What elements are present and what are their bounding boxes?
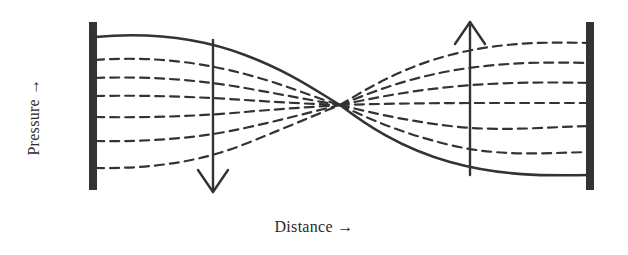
- right-dashed-curve-2: [340, 63, 590, 105]
- right-boundary-wall: [586, 22, 594, 190]
- diagram-canvas: [0, 0, 628, 255]
- right-upward-arrow: [455, 22, 485, 175]
- left-dashed-curve-4: [95, 105, 340, 117]
- pressure-distance-diagram: Pressure → Distance →: [0, 0, 628, 255]
- left-dashed-curve-3: [95, 96, 340, 105]
- x-axis-label: Distance →: [0, 218, 628, 236]
- right-dashed-curve-4: [340, 103, 590, 105]
- y-axis-label: Pressure →: [25, 47, 43, 187]
- left-dashed-curve-5: [95, 105, 340, 141]
- right-dashed-curve-3: [340, 82, 590, 105]
- left-boundary-wall: [89, 22, 97, 190]
- left-envelope-solid-curve: [95, 35, 340, 105]
- right-curve-group: [340, 43, 590, 176]
- right-dashed-curve-1: [340, 43, 590, 105]
- left-curve-group: [95, 35, 340, 168]
- right-dashed-curve-5: [340, 105, 590, 129]
- right-envelope-solid-curve: [340, 105, 590, 175]
